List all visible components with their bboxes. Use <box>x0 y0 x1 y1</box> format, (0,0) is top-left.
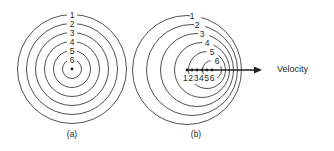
velocity-label: Velocity <box>277 64 309 74</box>
panel-a-ring-label-6: 6 <box>70 55 75 65</box>
panel-b-ring-label-6: 6 <box>215 56 220 66</box>
figure-canvas: 1 2 3 4 5 6 (a) 1 2 3 4 5 6 <box>0 0 334 151</box>
velocity-arrow-head <box>254 66 262 73</box>
panel-b-group: 1 2 3 4 5 6 123456 Velocity (b) <box>133 11 309 140</box>
panel-b-position-labels: 123456 <box>183 73 215 83</box>
panel-a-caption: (a) <box>67 129 78 139</box>
panel-a-source-dot <box>71 68 74 71</box>
panel-a-group: 1 2 3 4 5 6 (a) <box>18 10 127 140</box>
panel-b-caption: (b) <box>191 129 202 139</box>
doppler-figure: 1 2 3 4 5 6 (a) 1 2 3 4 5 6 <box>0 0 334 151</box>
